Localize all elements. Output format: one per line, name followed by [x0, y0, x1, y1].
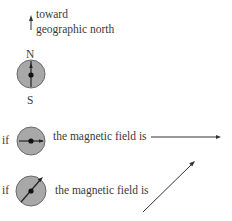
- header-line-toward: toward: [36, 8, 68, 21]
- example-1-prefix: if: [2, 134, 9, 147]
- example-2-text: the magnetic field is: [55, 184, 149, 197]
- header-line-geographic-north: geographic north: [36, 23, 114, 36]
- field-arrow-diagonal-icon: [143, 161, 195, 212]
- north-label: N: [26, 48, 34, 61]
- field-arrow-horizontal-icon: [151, 135, 221, 139]
- compass-east-icon: [17, 127, 45, 155]
- example-1-text: the magnetic field is: [53, 130, 147, 143]
- compass-northeast-icon: [16, 176, 46, 206]
- south-label: S: [27, 94, 33, 107]
- reference-compass-icon: [17, 60, 45, 88]
- geographic-north-arrow-icon: [29, 15, 33, 30]
- example-2-prefix: if: [2, 184, 9, 197]
